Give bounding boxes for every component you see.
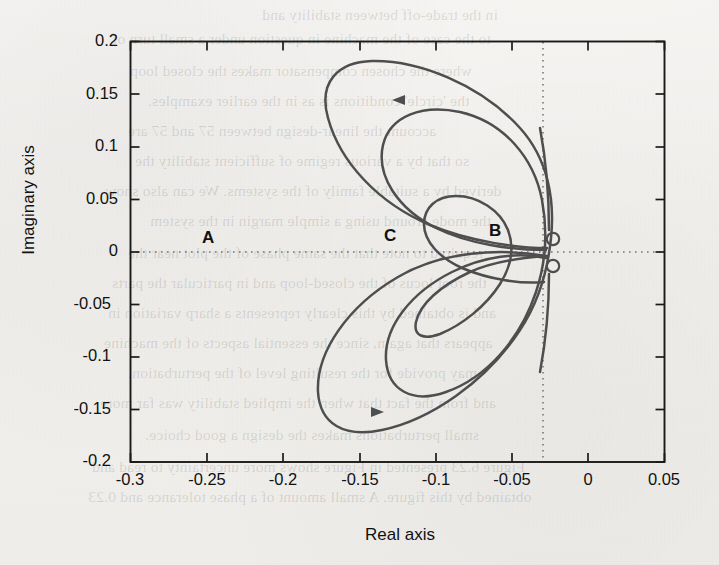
annotation-b: B [489,221,501,241]
x-tick-label: 0.05 [629,470,699,489]
origin-small-loop-upper [547,233,559,245]
direction-arrow-upper-left [392,95,405,105]
x-tick-label: -0.3 [95,470,165,489]
x-tick-label: 0 [553,470,623,489]
y-tick-label: -0.1 [41,346,111,365]
x-tick-label: -0.1 [401,470,471,489]
curve-outer-loop [318,61,552,432]
x-tick-label: -0.05 [477,470,547,489]
y-tick-label: -0.15 [41,399,111,418]
x-tick-label: -0.15 [325,470,395,489]
y-tick-label: 0.05 [48,189,118,208]
x-tick-label: -0.25 [172,470,242,489]
annotation-c: C [384,226,396,246]
y-tick-label: 0.15 [48,84,118,103]
y-tick-label: 0.1 [48,136,118,155]
y-tick-label: 0.2 [48,31,118,50]
y-tick-label: -0.2 [41,451,111,470]
x-axis-title: Real axis [330,525,470,545]
annotation-a: A [202,228,214,248]
y-tick-label: 0 [48,241,118,260]
y-tick-label: -0.05 [41,294,111,313]
nyquist-curves [318,61,559,432]
curve-inner-crescent [416,196,544,337]
y-axis-title: Imaginary axis [19,110,39,290]
x-tick-label: -0.2 [248,470,318,489]
direction-arrow-lower-right [371,407,384,417]
origin-small-loop-lower [547,260,559,272]
